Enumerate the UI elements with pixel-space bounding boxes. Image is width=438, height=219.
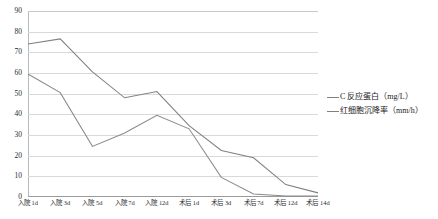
y-axis-tick-label: 50: [15, 90, 23, 98]
x-axis-tick-label: 入院 3d: [46, 198, 75, 207]
legend-item-c-reactive-protein: C 反应蛋白（mg/L）: [327, 90, 438, 104]
chart-container: 0102030405060708090 入院 1d入院 3d入院 5d入院 7d…: [0, 0, 438, 219]
y-axis-tick-label: 40: [15, 110, 23, 118]
series-lines: [28, 11, 318, 197]
y-axis-tick-label: 90: [15, 7, 23, 15]
legend-line-icon: [327, 111, 339, 112]
x-axis-tick-label: 入院 12d: [142, 198, 171, 207]
y-axis-tick-label: 60: [15, 69, 23, 77]
x-axis-tick-label: 术后 12d: [271, 198, 300, 207]
x-axis-tick-label: 术后 14d: [304, 198, 333, 207]
y-axis-tick-label: 70: [15, 48, 23, 56]
series-line-2: [28, 74, 318, 196]
x-axis-tick-label: 入院 7d: [110, 198, 139, 207]
x-axis-tick-label: 入院 5d: [78, 198, 107, 207]
chart-legend: C 反应蛋白（mg/L） 红细胞沉降率（mm/h）: [327, 90, 438, 118]
x-axis: 入院 1d入院 3d入院 5d入院 7d入院 12d术后 1d术后 3d术后 7…: [28, 198, 318, 214]
series-line-1: [28, 39, 318, 193]
legend-item-esr: 红细胞沉降率（mm/h）: [327, 104, 438, 118]
x-axis-tick-label: 入院 1d: [14, 198, 43, 207]
y-axis: 0102030405060708090: [0, 0, 26, 208]
x-axis-tick-label: 术后 1d: [175, 198, 204, 207]
legend-line-icon: [327, 97, 339, 98]
legend-label: 红细胞沉降率（mm/h）: [340, 106, 423, 116]
legend-label: C 反应蛋白（mg/L）: [340, 92, 413, 102]
y-axis-tick-label: 80: [15, 28, 23, 36]
y-axis-tick-label: 20: [15, 152, 23, 160]
y-axis-tick-label: 30: [15, 131, 23, 139]
x-axis-tick-label: 术后 3d: [207, 198, 236, 207]
x-axis-tick-label: 术后 7d: [239, 198, 268, 207]
y-axis-tick-label: 10: [15, 172, 23, 180]
plot-area: [28, 11, 318, 197]
